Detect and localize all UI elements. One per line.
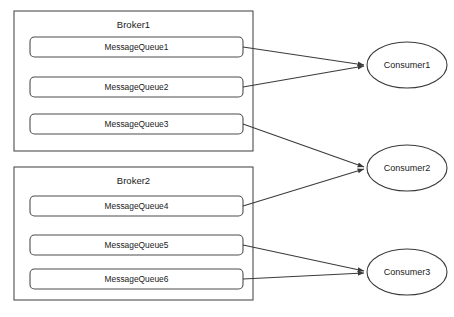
broker-label-broker1: Broker1: [117, 19, 150, 30]
diagram-canvas: Broker1 MessageQueue1 MessageQueue2 Mess…: [0, 0, 454, 317]
consumer-group-consumer3[interactable]: Consumer3: [367, 249, 447, 295]
connection-mq5-consumer3: [243, 245, 364, 271]
connection-mq6-consumer3: [243, 273, 364, 279]
queue-label-mq4: MessageQueue4: [105, 201, 169, 211]
connection-mq3-consumer2: [243, 124, 364, 167]
consumer-label-consumer2: Consumer2: [384, 163, 431, 173]
connection-mq1-consumer1: [243, 47, 364, 65]
queue-item-mq5[interactable]: MessageQueue5: [30, 235, 243, 255]
broker-label-broker2: Broker2: [117, 175, 150, 186]
consumer-label-consumer1: Consumer1: [384, 60, 431, 70]
queue-label-mq6: MessageQueue6: [105, 274, 169, 284]
queue-label-mq2: MessageQueue2: [105, 82, 169, 92]
broker-consumer-diagram: Broker1 MessageQueue1 MessageQueue2 Mess…: [0, 0, 454, 317]
queue-label-mq5: MessageQueue5: [105, 240, 169, 250]
consumer-group-consumer1[interactable]: Consumer1: [367, 42, 447, 88]
consumer-group-consumer2[interactable]: Consumer2: [367, 145, 447, 191]
queue-label-mq1: MessageQueue1: [105, 42, 169, 52]
queue-item-mq4[interactable]: MessageQueue4: [30, 196, 243, 216]
broker-group-broker1: Broker1 MessageQueue1 MessageQueue2 Mess…: [14, 11, 253, 151]
queue-label-mq3: MessageQueue3: [105, 119, 169, 129]
queue-item-mq2[interactable]: MessageQueue2: [30, 77, 243, 97]
connection-lines: [243, 47, 364, 279]
connection-mq4-consumer2: [243, 169, 364, 206]
consumer-label-consumer3: Consumer3: [384, 267, 431, 277]
queue-item-mq3[interactable]: MessageQueue3: [30, 114, 243, 134]
connection-mq2-consumer1: [243, 66, 364, 87]
queue-item-mq6[interactable]: MessageQueue6: [30, 269, 243, 289]
queue-item-mq1[interactable]: MessageQueue1: [30, 37, 243, 57]
broker-group-broker2: Broker2 MessageQueue4 MessageQueue5 Mess…: [14, 167, 253, 300]
